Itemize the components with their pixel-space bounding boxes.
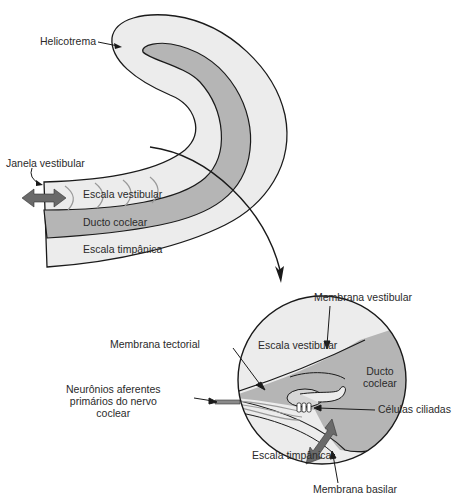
label-afferent-line1: Neurônios aferentes bbox=[66, 383, 161, 395]
label-afferent-line3: coclear bbox=[96, 407, 130, 419]
label-afferent-line2: primários do nervo bbox=[70, 395, 157, 407]
label-cochlear-duct-line2: coclear bbox=[363, 377, 397, 389]
uncoiled-cochlea bbox=[22, 15, 287, 267]
label-cochlear-duct-uncoiled: Ducto coclear bbox=[83, 216, 147, 228]
label-tectorial-membrane: Membrana tectorial bbox=[110, 338, 200, 350]
label-cochlear-duct-line1: Ducto bbox=[366, 365, 393, 377]
label-afferent-neurons: Neurônios aferentes primários do nervo c… bbox=[66, 383, 161, 419]
cochlea-diagram bbox=[0, 0, 456, 495]
label-helicotrema: Helicotrema bbox=[40, 35, 96, 47]
label-hair-cells: Células ciliadas bbox=[378, 403, 451, 415]
label-scala-vestibuli-uncoiled: Escala vestibular bbox=[83, 188, 162, 200]
label-oval-window: Janela vestibular bbox=[6, 157, 85, 169]
label-cochlear-duct-section: Ducto coclear bbox=[363, 365, 397, 389]
label-vestibular-membrane: Membrana vestibular bbox=[314, 291, 412, 303]
hair-cells bbox=[297, 403, 311, 412]
label-scala-tympani-section: Escala timpânica bbox=[252, 449, 331, 461]
label-scala-tympani-uncoiled: Escala timpânica bbox=[83, 243, 162, 255]
label-basilar-membrane: Membrana basilar bbox=[313, 483, 397, 495]
label-scala-vestibuli-section: Escala vestibular bbox=[258, 339, 337, 351]
